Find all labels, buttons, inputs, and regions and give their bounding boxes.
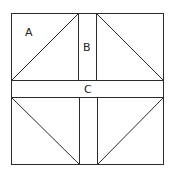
label-a: A — [25, 26, 33, 39]
label-c: C — [84, 83, 92, 96]
label-b: B — [83, 41, 91, 54]
diagonal-bottom-right — [98, 98, 164, 165]
quilt-block-diagram: A B C — [0, 0, 177, 170]
diagonal-bottom-left — [12, 98, 80, 165]
diagonal-top-right — [97, 14, 164, 81]
diagonal-top-left — [12, 14, 79, 81]
